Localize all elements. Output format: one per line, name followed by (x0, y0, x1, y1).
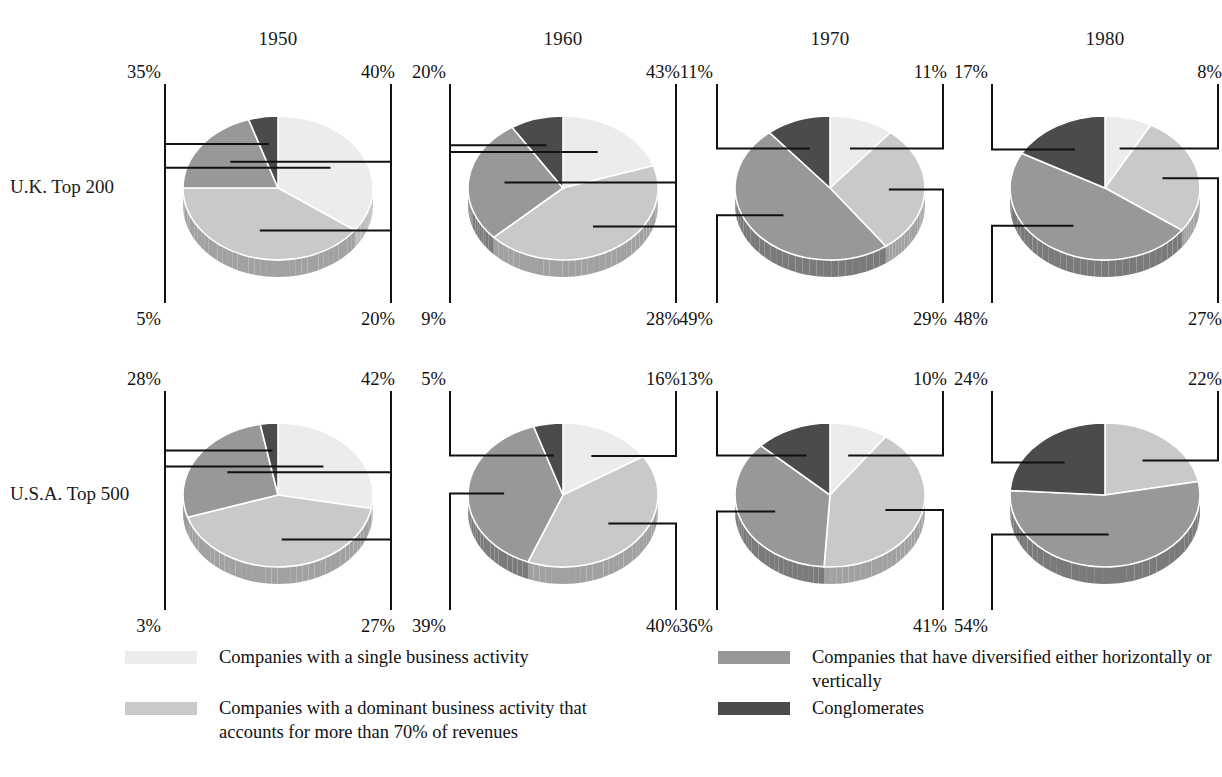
pct-label-diversified: 39% (412, 616, 446, 637)
legend-label-diversified: Companies that have diversified either h… (812, 646, 1212, 693)
pct-label-conglomerate: 17% (954, 62, 988, 83)
pct-label-dominant: 22% (1188, 369, 1222, 390)
pct-label-dominant: 42% (361, 369, 395, 390)
chart-legend: Companies with a single business activit… (0, 640, 1219, 777)
pct-label-diversified: 27% (361, 616, 395, 637)
pie-slice-conglomerate (1010, 423, 1105, 495)
year-header-1950: 1950 (218, 28, 338, 50)
pct-label-dominant: 43% (646, 62, 680, 83)
pct-label-conglomerate: 5% (421, 369, 446, 390)
legend-label-conglomerate: Conglomerates (812, 697, 924, 721)
legend-label-dominant: Companies with a dominant business activ… (219, 697, 619, 744)
pct-label-diversified: 54% (954, 616, 988, 637)
pct-label-single: 10% (913, 369, 947, 390)
row-label-uk: U.K. Top 200 (10, 176, 114, 198)
year-header-1970: 1970 (770, 28, 890, 50)
pct-label-conglomerate: 9% (421, 309, 446, 330)
pct-label-diversified: 20% (361, 309, 395, 330)
year-header-1960: 1960 (503, 28, 623, 50)
pct-label-diversified: 49% (679, 309, 713, 330)
legend-label-single: Companies with a single business activit… (219, 646, 529, 670)
pie-usa-1950 (163, 403, 393, 604)
pct-label-conglomerate: 24% (954, 369, 988, 390)
legend-swatch-conglomerate-icon (718, 702, 790, 715)
pct-label-diversified: 28% (646, 309, 680, 330)
pct-label-single: 16% (646, 369, 680, 390)
pct-label-single: 11% (914, 62, 947, 83)
legend-item-dominant[interactable]: Companies with a dominant business activ… (125, 697, 619, 744)
legend-swatch-dominant-icon (125, 702, 197, 715)
pie-uk-1950 (163, 96, 393, 297)
pct-label-dominant: 40% (646, 616, 680, 637)
pie-slice-single (278, 423, 373, 508)
pie-uk-1970 (715, 96, 945, 297)
pct-label-diversified: 36% (679, 616, 713, 637)
pct-label-conglomerate: 3% (136, 616, 161, 637)
pct-label-conglomerate: 13% (679, 369, 713, 390)
pct-label-dominant: 29% (913, 309, 947, 330)
pct-label-single: 35% (127, 62, 161, 83)
legend-swatch-diversified-icon (718, 651, 790, 664)
pct-label-dominant: 41% (913, 616, 947, 637)
pct-label-single: 8% (1197, 62, 1222, 83)
legend-item-single[interactable]: Companies with a single business activit… (125, 646, 529, 670)
pct-label-conglomerate: 11% (680, 62, 713, 83)
pct-label-dominant: 27% (1188, 309, 1222, 330)
pie-usa-1960 (448, 403, 678, 604)
row-label-usa: U.S.A. Top 500 (10, 483, 129, 505)
pie-uk-1960 (448, 96, 678, 297)
pct-label-single: 20% (412, 62, 446, 83)
legend-swatch-single-icon (125, 651, 197, 664)
pie-uk-1980 (990, 96, 1220, 297)
pct-label-diversified: 48% (954, 309, 988, 330)
legend-item-diversified[interactable]: Companies that have diversified either h… (718, 646, 1212, 693)
pct-label-conglomerate: 5% (136, 309, 161, 330)
legend-item-conglomerate[interactable]: Conglomerates (718, 697, 924, 721)
pie-usa-1970 (715, 403, 945, 604)
year-header-1980: 1980 (1045, 28, 1165, 50)
pie-usa-1980 (990, 403, 1220, 604)
pct-label-single: 28% (127, 369, 161, 390)
pct-label-dominant: 40% (361, 62, 395, 83)
